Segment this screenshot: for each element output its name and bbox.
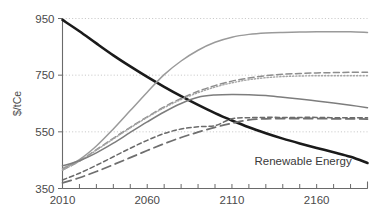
y-axis-title: $/tCe: [11, 91, 23, 116]
x-tick-label: 2160: [304, 194, 330, 206]
x-axis-ticks: [63, 184, 368, 189]
y-tick-label: 350: [35, 183, 54, 195]
x-tick-label: 2110: [220, 194, 245, 206]
y-tick-label: 750: [35, 69, 54, 81]
line-chart: 2010206021102160 350550750950 Renewable …: [0, 0, 376, 221]
x-axis-tick-labels: 2010206021102160: [50, 194, 330, 206]
series-lower-longdash-grey: [63, 118, 368, 182]
x-tick-label: 2060: [134, 194, 160, 206]
chart-container: 2010206021102160 350550750950 Renewable …: [0, 0, 376, 221]
y-axis-title-text: $/tCe: [11, 91, 23, 116]
y-axis-tick-labels: 350550750950: [35, 13, 54, 195]
chart-annotations: Renewable Energy: [255, 155, 352, 167]
x-tick-label: 2010: [50, 194, 76, 206]
annotation-renewable-energy: Renewable Energy: [255, 155, 352, 167]
y-tick-label: 550: [35, 126, 54, 138]
y-axis-ticks: [58, 19, 63, 189]
y-tick-label: 950: [35, 13, 54, 25]
